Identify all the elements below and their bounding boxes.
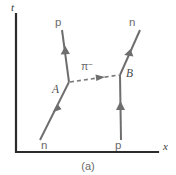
y-axis-label: t <box>11 1 15 13</box>
incoming-proton-arrow-icon <box>116 101 125 110</box>
exchanged-pion-label: π− <box>81 60 93 72</box>
exchanged-pion-arrow-icon <box>96 74 106 81</box>
outgoing-proton-line <box>62 30 69 82</box>
vertex-label-a: A <box>51 83 60 95</box>
figure-caption: (a) <box>81 160 94 172</box>
pion-charge-superscript: − <box>88 60 93 69</box>
outgoing-neutron-label: n <box>129 16 135 28</box>
vertex-label-b: B <box>126 67 133 79</box>
incoming-neutron-label: n <box>41 139 47 151</box>
outgoing-proton-arrow-icon <box>61 46 70 55</box>
particle-line-exchanged-pion: π− <box>70 60 119 82</box>
pion-symbol: π <box>81 60 88 72</box>
feynman-diagram-canvas: t x n p p n π− <box>0 0 176 175</box>
incoming-neutron-arrow-icon <box>53 104 62 112</box>
exchanged-pion-line <box>70 75 119 82</box>
axis-lines <box>16 14 158 152</box>
axes-group: t x <box>11 1 168 152</box>
particle-line-incoming-proton: p <box>115 75 125 151</box>
x-axis-label: x <box>162 140 168 152</box>
feynman-diagram-figure: t x n p p n π− <box>0 0 176 175</box>
particle-line-outgoing-proton: p <box>55 16 70 82</box>
outgoing-proton-label: p <box>55 16 61 28</box>
incoming-proton-label: p <box>115 139 121 151</box>
